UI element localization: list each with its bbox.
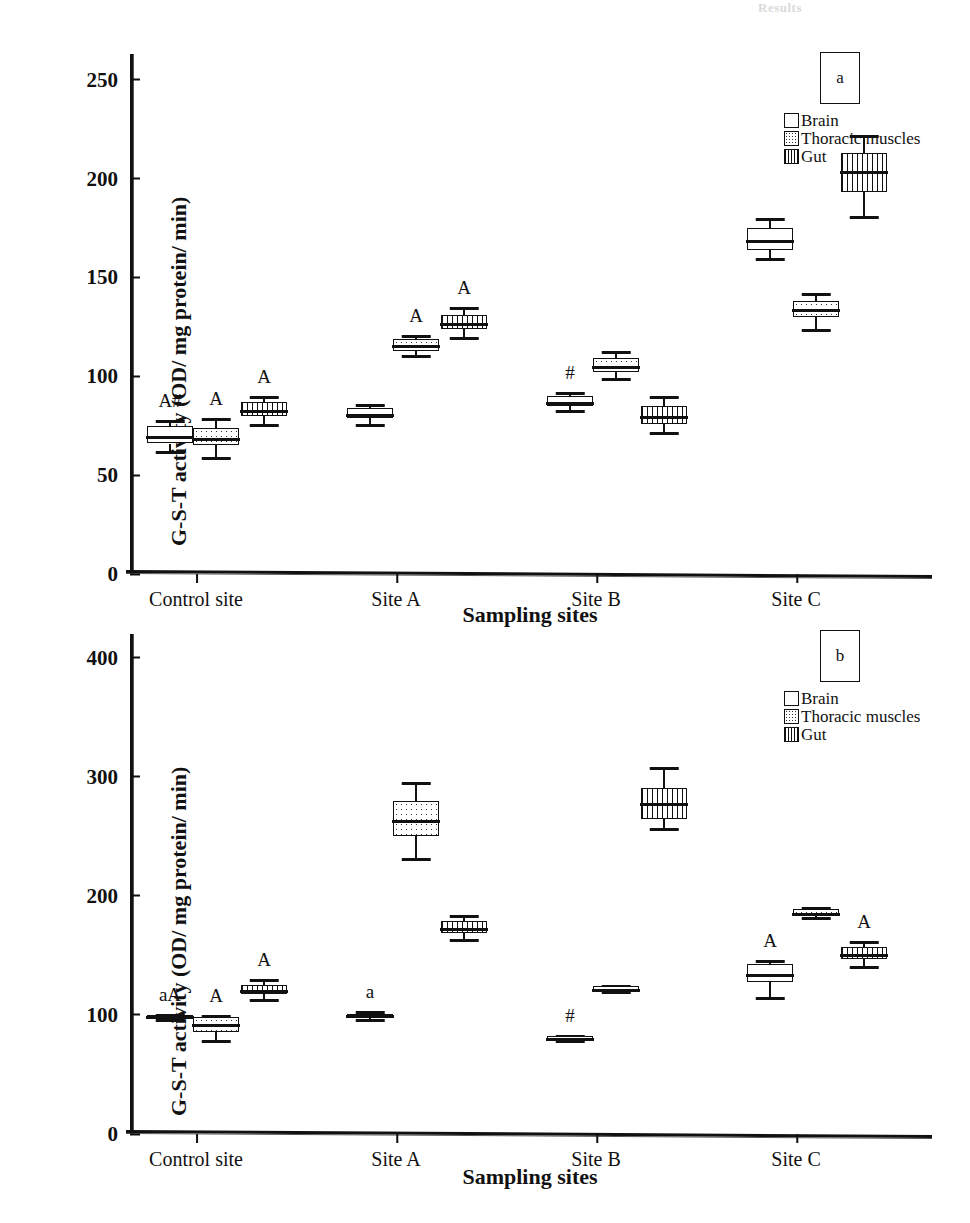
whisker-cap-lower <box>356 1019 385 1022</box>
box-rect <box>241 402 287 416</box>
whisker-cap-upper <box>356 404 385 407</box>
y-tick-a-0: 0 <box>108 564 131 585</box>
legend-swatch-gut-icon <box>784 727 799 742</box>
whisker-upper <box>663 767 665 787</box>
significance-annotation: aA <box>159 984 181 1006</box>
legend-swatch-thoracic-icon <box>784 709 799 724</box>
whisker-cap-lower <box>356 424 385 427</box>
legend-item-brain: Brain <box>784 112 920 130</box>
median-line <box>840 954 888 957</box>
x-tick-mark-icon <box>196 1134 198 1143</box>
legend-label-gut: Gut <box>801 726 827 744</box>
median-line <box>440 928 488 931</box>
whisker-cap-lower <box>602 991 631 994</box>
median-line <box>746 974 794 977</box>
whisker-cap-lower <box>202 457 231 460</box>
whisker-cap-upper <box>650 396 679 399</box>
median-line <box>640 803 688 806</box>
y-tick-mark-icon <box>130 895 140 897</box>
significance-annotation: A <box>209 985 223 1007</box>
median-line <box>240 990 288 993</box>
boxplot-b-gut-site-b <box>641 634 687 1134</box>
legend-item-gut: Gut <box>784 726 920 744</box>
boxplot-b-brain-control-site: aA <box>147 634 193 1134</box>
y-tick-a-50: 50 <box>97 465 130 486</box>
whisker-cap-upper <box>602 351 631 354</box>
whisker-cap-upper <box>450 307 479 310</box>
whisker-cap-upper <box>850 941 879 944</box>
whisker-cap-upper <box>756 218 785 221</box>
whisker-lower <box>815 317 817 329</box>
significance-annotation: A <box>857 911 871 933</box>
y-tick-mark-icon <box>130 776 140 778</box>
boxplot-b-thoracic-muscles-control-site: A <box>193 634 239 1134</box>
y-axis-a <box>130 54 134 574</box>
significance-annotation: A <box>763 930 777 952</box>
legend-swatch-gut-icon <box>784 149 799 164</box>
whisker-cap-lower <box>156 1019 185 1022</box>
median-line <box>592 366 640 369</box>
legend-label-thoracic-muscles: Thoracic muscles <box>801 130 920 148</box>
legend-item-gut: Gut <box>784 148 920 166</box>
whisker-cap-lower <box>250 999 279 1002</box>
y-tick-b-0: 0 <box>108 1124 131 1145</box>
legend-item-thoracic-muscles: Thoracic muscles <box>784 708 920 726</box>
x-tick-mark-icon <box>196 574 198 583</box>
x-tick-mark-icon <box>796 1134 798 1143</box>
y-tick-mark-icon <box>130 178 140 180</box>
whisker-cap-lower <box>250 424 279 427</box>
significance-annotation: A# <box>158 390 181 412</box>
y-tick-b-300: 300 <box>87 766 131 787</box>
y-tick-b-200: 200 <box>87 885 131 906</box>
y-tick-mark-icon <box>130 375 140 377</box>
median-line <box>192 1024 240 1027</box>
significance-annotation: A <box>409 305 423 327</box>
median-line <box>392 820 440 823</box>
legend-item-brain: Brain <box>784 690 920 708</box>
whisker-cap-lower <box>450 939 479 942</box>
boxplot-b-gut-control-site: A <box>241 634 287 1134</box>
boxplot-a-thoracic-muscles-site-a: A <box>393 54 439 574</box>
legend-label-brain: Brain <box>801 690 839 708</box>
y-axis-b <box>130 634 134 1134</box>
median-line <box>146 436 194 439</box>
legend-item-thoracic-muscles: Thoracic muscles <box>784 130 920 148</box>
whisker-cap-lower <box>202 1040 231 1043</box>
box-rect <box>147 426 193 444</box>
whisker-lower <box>863 192 865 216</box>
significance-annotation: A <box>209 388 223 410</box>
box-rect <box>441 315 487 329</box>
panel-a: G-S-T activity (OD/ mg protein/ min) 050… <box>0 24 970 614</box>
y-tick-mark-icon <box>130 79 140 81</box>
whisker-cap-lower <box>850 966 879 969</box>
whisker-cap-lower <box>602 378 631 381</box>
boxplot-a-brain-site-b: # <box>547 54 593 574</box>
whisker-cap-lower <box>402 355 431 358</box>
median-line <box>746 240 794 243</box>
whisker-lower <box>415 836 417 857</box>
whisker-lower <box>663 819 665 829</box>
median-line <box>640 416 688 419</box>
y-tick-mark-icon <box>130 276 140 278</box>
whisker-lower <box>769 250 771 258</box>
whisker-cap-upper <box>802 293 831 296</box>
legend-swatch-brain-icon <box>784 113 799 128</box>
y-tick-a-100: 100 <box>87 366 131 387</box>
x-tick-mark-icon <box>796 574 798 583</box>
whisker-cap-lower <box>850 216 879 219</box>
y-tick-mark-icon <box>130 657 140 659</box>
legend-b: Brain Thoracic muscles Gut <box>784 690 920 744</box>
y-tick-b-400: 400 <box>87 647 131 668</box>
whisker-lower <box>215 445 217 457</box>
whisker-lower <box>263 416 265 424</box>
boxplot-b-brain-site-a: a <box>347 634 393 1134</box>
whisker-cap-upper <box>756 960 785 963</box>
significance-annotation: a <box>366 981 374 1003</box>
boxplot-b-gut-site-a <box>441 634 487 1134</box>
median-line <box>792 309 840 312</box>
whisker-cap-upper <box>202 418 231 421</box>
whisker-lower <box>463 329 465 337</box>
whisker-cap-lower <box>756 258 785 261</box>
x-tick-mark-icon <box>396 1134 398 1143</box>
whisker-cap-upper <box>156 420 185 423</box>
